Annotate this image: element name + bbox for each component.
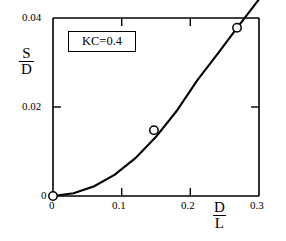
y-axis-label: S D — [19, 44, 34, 78]
x-axis-ticks-top — [122, 18, 191, 26]
data-point-marker — [150, 126, 158, 134]
data-curve — [53, 0, 259, 196]
annotation-box: KC=0.4 — [68, 31, 136, 52]
annotation-text: KC=0.4 — [82, 34, 122, 49]
x-axis-label-numerator: D — [212, 200, 227, 215]
x-tick-label-3: 0.3 — [250, 199, 264, 211]
x-tick-label-2: 0.2 — [181, 199, 195, 211]
x-tick-label-1: 0.1 — [112, 199, 126, 211]
data-point-marker — [233, 24, 241, 32]
y-tick-label-top: 0.04 — [22, 11, 41, 23]
x-tick-label-0: 0 — [49, 199, 55, 211]
y-tick-label-bottom: 0 — [41, 189, 47, 201]
x-axis-ticks — [122, 188, 191, 196]
chart-figure: KC=0.4 0.04 0.02 0 0 0.1 0.2 0.3 S D D L — [0, 0, 286, 241]
y-tick-label-mid: 0.02 — [22, 100, 41, 112]
plot-area — [0, 0, 286, 241]
y-axis-label-denominator: D — [19, 61, 34, 77]
y-axis-label-numerator: S — [20, 46, 32, 61]
x-axis-label-denominator: L — [213, 215, 226, 231]
x-axis-label: D L — [212, 198, 227, 232]
